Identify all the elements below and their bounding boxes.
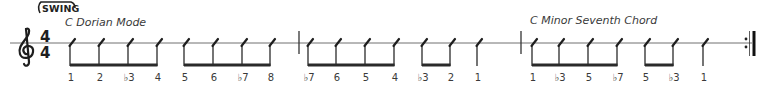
scale-degree: ♭3: [417, 72, 428, 83]
scale-degree: 2: [97, 72, 103, 83]
scale-degree: 5: [182, 72, 188, 83]
scale-degree: 6: [211, 72, 217, 83]
scale-degree: 1: [68, 72, 74, 83]
swing-marking: SWING: [40, 1, 78, 12]
scale-degree: 2: [448, 72, 454, 83]
scale-degree: 1: [701, 72, 707, 83]
section-title-dorian: C Dorian Mode: [65, 16, 146, 29]
scale-degree: ♭3: [554, 72, 565, 83]
time-signature-bottom: 4: [40, 44, 50, 62]
time-signature: 4 4: [40, 28, 50, 62]
scale-degree: 5: [586, 72, 592, 83]
scale-degree: 6: [334, 72, 340, 83]
scale-degree: 5: [643, 72, 649, 83]
scale-degree: ♭7: [612, 72, 623, 83]
scale-degree: ♭7: [303, 72, 314, 83]
scale-degree: 5: [363, 72, 369, 83]
treble-clef-icon: [19, 29, 33, 66]
scale-degree: 1: [530, 72, 536, 83]
scale-degree: ♭3: [123, 72, 134, 83]
scale-degree: ♭7: [237, 72, 248, 83]
section-title-min7: C Minor Seventh Chord: [530, 14, 657, 27]
scale-degree: 4: [392, 72, 398, 83]
scale-degree: ♭3: [668, 72, 679, 83]
swing-label: SWING: [42, 3, 80, 14]
scale-degree: 4: [155, 72, 161, 83]
scale-degree: 8: [268, 72, 274, 83]
scale-degree: 1: [475, 72, 481, 83]
